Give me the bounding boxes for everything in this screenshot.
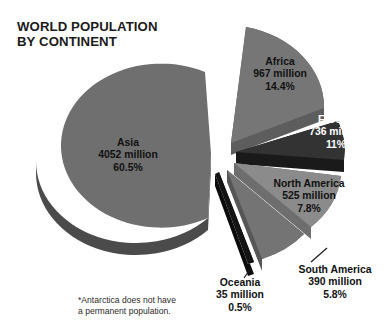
pie-chart-infographic: WORLD POPULATION BY CONTINENT: [0, 0, 390, 332]
footnote: *Antarctica does not have a permanent po…: [78, 295, 238, 316]
slice-label-asia-value: 4052 million: [68, 149, 188, 161]
slice-label-north-america-name: North America: [248, 178, 370, 190]
leader-line-south-america: [311, 248, 327, 262]
slice-label-africa-name: Africa: [228, 56, 332, 68]
page-title: WORLD POPULATION BY CONTINENT: [17, 19, 227, 49]
slice-label-oceania-name: Oceania: [196, 277, 284, 289]
slice-label-south-america-name: South America: [280, 264, 390, 276]
slice-label-north-america: North America 525 million 7.8%: [248, 178, 370, 215]
slice-label-south-america-value: 390 million: [280, 276, 390, 288]
slice-label-africa-value: 967 million: [228, 68, 332, 80]
slice-label-europe-value: 736 million: [286, 126, 386, 138]
slice-label-africa-pct: 14.4%: [228, 81, 332, 93]
slice-label-asia: Asia 4052 million 60.5%: [68, 137, 188, 174]
slice-label-asia-pct: 60.5%: [68, 162, 188, 174]
slice-label-europe: Europe 736 million 11%: [286, 114, 386, 151]
slice-label-south-america-pct: 5.8%: [280, 289, 390, 301]
slice-label-north-america-pct: 7.8%: [248, 203, 370, 215]
slice-label-europe-pct: 11%: [286, 139, 386, 151]
slice-label-europe-name: Europe: [286, 114, 386, 126]
slice-label-north-america-value: 525 million: [248, 190, 370, 202]
slice-label-south-america: South America 390 million 5.8%: [280, 264, 390, 301]
slice-label-asia-name: Asia: [68, 137, 188, 149]
slice-label-africa: Africa 967 million 14.4%: [228, 56, 332, 93]
